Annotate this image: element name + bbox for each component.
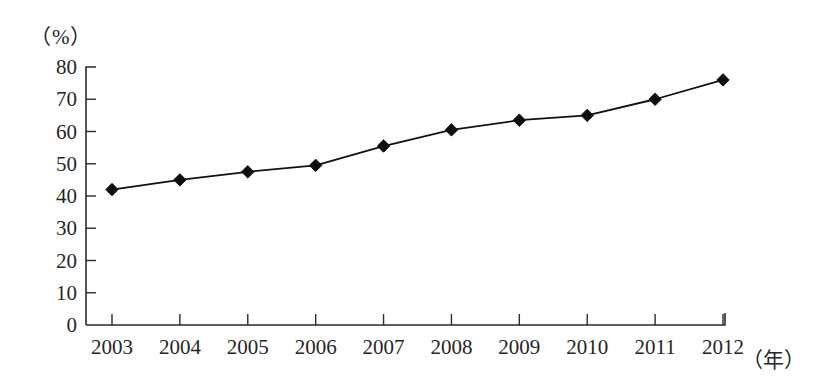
data-point-marker [649, 93, 661, 105]
data-point-marker [106, 183, 118, 195]
y-tick-label: 0 [67, 313, 78, 337]
line-chart: 01020304050607080 2003200420052006200720… [0, 0, 839, 385]
y-tick-label: 30 [56, 216, 77, 240]
data-point-marker [174, 174, 186, 186]
y-tick-label: 70 [56, 87, 77, 111]
chart-page: （%） （年） 01020304050607080 20032004200520… [0, 0, 839, 385]
y-tick-label: 40 [56, 184, 77, 208]
y-tick-label: 60 [56, 120, 77, 144]
x-axis-ticks: 2003200420052006200720082009201020112012 [91, 314, 744, 359]
x-tick-label: 2007 [363, 335, 405, 359]
x-tick-label: 2012 [702, 335, 744, 359]
x-tick-label: 2004 [159, 335, 202, 359]
data-point-marker [581, 109, 593, 121]
x-tick-label: 2005 [227, 335, 269, 359]
y-tick-label: 20 [56, 249, 77, 273]
x-tick-label: 2003 [91, 335, 133, 359]
x-tick-label: 2006 [295, 335, 337, 359]
x-tick-label: 2011 [634, 335, 675, 359]
data-point-marker [242, 166, 254, 178]
data-point-marker [513, 114, 525, 126]
y-tick-label: 50 [56, 152, 77, 176]
y-tick-label: 10 [56, 281, 77, 305]
x-tick-label: 2010 [566, 335, 608, 359]
data-point-marker [377, 140, 389, 152]
x-tick-label: 2009 [498, 335, 540, 359]
data-point-marker [309, 159, 321, 171]
x-axis-line [86, 313, 725, 325]
data-series-line [112, 80, 723, 190]
y-tick-label: 80 [56, 55, 77, 79]
x-tick-label: 2008 [430, 335, 472, 359]
data-point-marker [717, 74, 729, 86]
data-point-marker [445, 124, 457, 136]
y-axis-ticks: 01020304050607080 [56, 55, 96, 337]
